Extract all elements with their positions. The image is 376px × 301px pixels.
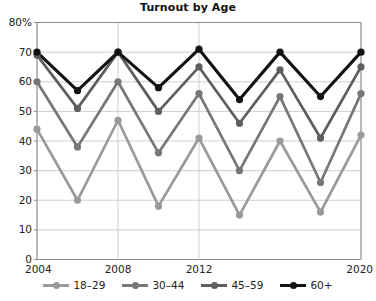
data-point: [33, 78, 40, 85]
y-axis-tick-label: 10: [19, 223, 32, 235]
data-point: [195, 134, 202, 141]
data-point: [317, 179, 324, 186]
legend-swatch-icon: [280, 280, 306, 290]
data-point: [236, 211, 243, 218]
data-point: [195, 63, 202, 70]
legend-item-label: 18–29: [73, 279, 105, 291]
data-point: [236, 167, 243, 174]
data-point: [357, 131, 364, 138]
legend-marker-icon: [53, 282, 60, 289]
data-point: [236, 96, 243, 103]
legend-item[interactable]: 60+: [280, 279, 332, 291]
data-point: [195, 46, 202, 53]
legend-item[interactable]: 18–29: [43, 279, 105, 291]
y-axis-tick-label: 20: [19, 194, 32, 206]
x-axis-tick-label: 2012: [186, 263, 213, 275]
legend-swatch-icon: [43, 280, 69, 290]
line-chart-plot: 01020304050607080%2004200820122020: [0, 0, 376, 301]
data-point: [236, 120, 243, 127]
legend-marker-icon: [211, 282, 218, 289]
data-point: [33, 49, 40, 56]
legend-marker-icon: [290, 282, 297, 289]
data-point: [276, 93, 283, 100]
data-point: [155, 84, 162, 91]
y-axis-tick-label: 40: [19, 135, 32, 147]
data-point: [74, 105, 81, 112]
y-axis-tick-label: 80%: [9, 16, 32, 28]
data-point: [357, 63, 364, 70]
chart-container: Turnout by Age 01020304050607080%2004200…: [0, 0, 376, 301]
y-axis-tick-label: 50: [19, 105, 32, 117]
data-point: [114, 117, 121, 124]
legend-item[interactable]: 30–44: [122, 279, 184, 291]
data-point: [317, 134, 324, 141]
data-point: [276, 49, 283, 56]
data-point: [317, 209, 324, 216]
data-point: [317, 93, 324, 100]
chart-legend: 18–2930–4445–5960+: [0, 279, 376, 291]
legend-swatch-icon: [122, 280, 148, 290]
y-axis-tick-label: 70: [19, 46, 32, 58]
legend-item-label: 45–59: [231, 279, 263, 291]
data-point: [155, 203, 162, 210]
legend-swatch-icon: [201, 280, 227, 290]
data-point: [74, 197, 81, 204]
x-axis-tick-label: 2020: [346, 263, 373, 275]
data-point: [195, 90, 202, 97]
x-axis-tick-label: 2008: [105, 263, 132, 275]
legend-marker-icon: [132, 282, 139, 289]
data-point: [74, 87, 81, 94]
legend-item-label: 60+: [310, 279, 332, 291]
data-point: [114, 49, 121, 56]
legend-item-label: 30–44: [152, 279, 184, 291]
x-axis-tick-label: 2004: [25, 263, 52, 275]
data-point: [276, 66, 283, 73]
data-point: [155, 149, 162, 156]
legend-item[interactable]: 45–59: [201, 279, 263, 291]
data-point: [74, 143, 81, 150]
y-axis-tick-label: 60: [19, 75, 32, 87]
data-point: [114, 78, 121, 85]
data-point: [33, 126, 40, 133]
data-point: [357, 90, 364, 97]
data-point: [155, 108, 162, 115]
y-axis-tick-label: 30: [19, 164, 32, 176]
data-point: [276, 137, 283, 144]
data-point: [357, 49, 364, 56]
